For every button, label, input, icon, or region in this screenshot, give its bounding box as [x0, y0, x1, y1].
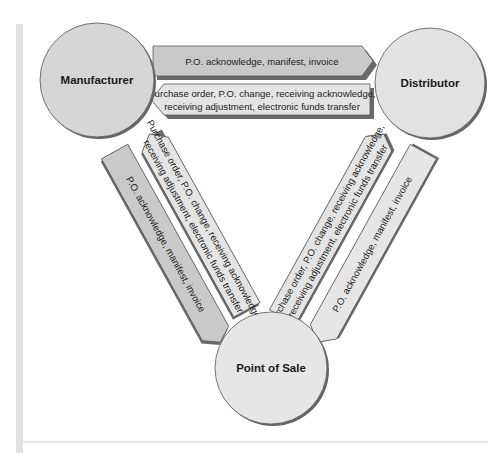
flow-label: P.O. acknowledge, manifest, invoice: [185, 56, 338, 67]
supply-chain-diagram: P.O. acknowledge, manifest, invoice Purc…: [0, 0, 503, 453]
frame-left-bar: [16, 24, 23, 453]
node-manufacturer: Manufacturer: [40, 23, 156, 139]
node-label: Distributor: [401, 77, 460, 89]
node-label: Point of Sale: [236, 362, 306, 374]
node-distributor: Distributor: [375, 28, 487, 140]
flow-arrow-manufacturer-to-distributor: P.O. acknowledge, manifest, invoice: [153, 46, 377, 80]
flow-label: receiving adjustment, electronic funds t…: [164, 101, 361, 112]
flow-arrow-distributor-to-manufacturer: Purchase order, P.O. change, receiving a…: [148, 84, 376, 119]
flow-label: Purchase order, P.O. change, receiving a…: [148, 88, 376, 99]
frame-bottom-rule: [22, 441, 488, 443]
node-label: Manufacturer: [61, 74, 134, 86]
